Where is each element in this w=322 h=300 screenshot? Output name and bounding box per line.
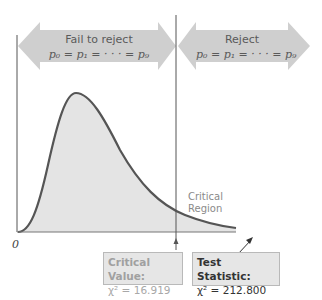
reject-label: Reject [196,32,288,47]
fail-to-reject-hypothesis: p₀ = p₁ = · · · = p₉ [40,47,158,62]
fail-to-reject-label-group: Fail to reject p₀ = p₁ = · · · = p₉ [40,32,158,62]
critical-region-line2: Region [188,203,223,215]
test-statistic-value: χ² = 212.800 [197,283,275,297]
critical-region-line1: Critical [188,191,223,203]
test-statistic-arrowhead [246,237,253,244]
test-statistic-title: Test Statistic: [197,255,275,283]
origin-label: 0 [12,238,19,251]
critical-region-label: Critical Region [188,191,223,215]
critical-value-title: Critical Value: [108,255,178,283]
test-statistic-box: Test Statistic: χ² = 212.800 [192,252,280,286]
critical-value-arrowhead [174,238,179,244]
reject-label-group: Reject p₀ = p₁ = · · · = p₉ [196,32,288,62]
critical-value-box: Critical Value: χ² = 16.919 [103,252,183,285]
reject-hypothesis: p₀ = p₁ = · · · = p₉ [196,47,288,62]
fail-to-reject-label: Fail to reject [40,32,158,47]
critical-value-value: χ² = 16.919 [108,283,178,297]
